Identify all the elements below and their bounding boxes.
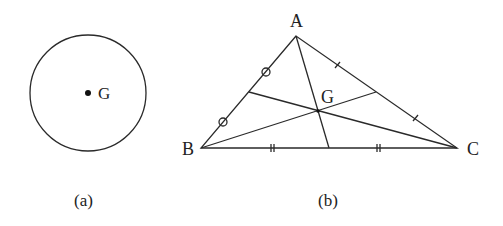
label-a: A xyxy=(290,11,303,31)
label-b: B xyxy=(182,139,194,159)
center-point-g xyxy=(85,90,91,96)
label-g-b: G xyxy=(321,87,334,107)
label-g-a: G xyxy=(98,84,110,103)
label-c: C xyxy=(467,139,479,159)
caption-a: (a) xyxy=(74,191,93,210)
median-from-c xyxy=(249,92,457,148)
diagram-canvas: G (a) A B C G (b) xyxy=(0,0,503,226)
median-from-b xyxy=(201,92,376,148)
figure-b: A B C G (b) xyxy=(182,11,479,210)
caption-b: (b) xyxy=(318,191,338,210)
figure-a: G (a) xyxy=(30,35,146,210)
centroid-point xyxy=(316,109,320,113)
